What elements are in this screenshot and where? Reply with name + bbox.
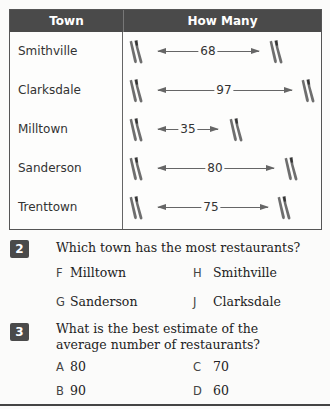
choice-letter: G xyxy=(56,294,70,310)
table-row: Sanderson 80 xyxy=(10,149,321,188)
fork-and-knife-icon xyxy=(300,76,316,106)
fork-and-knife-icon xyxy=(128,37,144,67)
choice-letter: C xyxy=(193,359,213,375)
question-text-line1: What is the best estimate of the xyxy=(56,321,258,337)
answer-choice-b[interactable]: B90 xyxy=(56,383,86,399)
town-name: Smithville xyxy=(18,32,77,71)
header-town: Town xyxy=(10,10,123,32)
answer-choice-h[interactable]: HSmithville xyxy=(193,265,277,281)
choice-text: Clarksdale xyxy=(213,294,281,310)
town-name: Clarksdale xyxy=(18,71,81,110)
town-name: Milltown xyxy=(18,110,68,149)
choice-letter: D xyxy=(193,383,213,399)
fork-and-knife-icon xyxy=(128,76,144,106)
question-number-badge: 2 xyxy=(10,240,29,258)
town-name: Trenttown xyxy=(18,188,77,227)
count-label: 97 xyxy=(214,82,233,98)
answer-choice-f[interactable]: FMilltown xyxy=(56,265,126,281)
restaurant-table: Town How Many Smithville 68 Clarksdale 9… xyxy=(9,9,322,230)
answer-choice-c[interactable]: C70 xyxy=(193,359,229,375)
answer-choice-g[interactable]: GSanderson xyxy=(56,294,137,310)
fork-and-knife-icon xyxy=(268,37,284,67)
fork-and-knife-icon xyxy=(276,193,292,223)
question-number-badge: 3 xyxy=(10,323,29,341)
fork-and-knife-icon xyxy=(128,193,144,223)
answer-choice-a[interactable]: A80 xyxy=(56,359,86,375)
choice-text: Sanderson xyxy=(70,294,137,310)
count-label: 68 xyxy=(198,43,217,59)
count-label: 75 xyxy=(201,199,220,215)
table-header: Town How Many xyxy=(10,10,321,32)
fork-and-knife-icon xyxy=(228,115,244,145)
choice-text: 80 xyxy=(70,359,86,375)
choice-text: Milltown xyxy=(70,265,126,281)
table-row: Trenttown 75 xyxy=(10,188,321,227)
fork-and-knife-icon xyxy=(128,115,144,145)
choice-letter: A xyxy=(56,359,70,375)
count-label: 80 xyxy=(205,160,224,176)
question-text: Which town has the most restaurants? xyxy=(56,240,300,256)
choice-letter: H xyxy=(193,265,213,281)
choice-text: 70 xyxy=(213,359,229,375)
town-name: Sanderson xyxy=(18,149,82,188)
choice-letter: F xyxy=(56,265,70,281)
choice-text: 90 xyxy=(70,383,86,399)
bottom-divider xyxy=(0,404,330,406)
answer-choice-j[interactable]: JClarksdale xyxy=(193,294,281,310)
fork-and-knife-icon xyxy=(283,154,299,184)
choice-text: Smithville xyxy=(213,265,277,281)
choice-text: 60 xyxy=(213,383,229,399)
count-label: 35 xyxy=(178,121,197,137)
answer-choice-d[interactable]: D60 xyxy=(193,383,229,399)
table-row: Smithville 68 xyxy=(10,32,321,71)
fork-and-knife-icon xyxy=(128,154,144,184)
header-how-many: How Many xyxy=(123,10,321,32)
choice-letter: B xyxy=(56,383,70,399)
table-row: Milltown 35 xyxy=(10,110,321,149)
table-row: Clarksdale 97 xyxy=(10,71,321,110)
choice-letter: J xyxy=(193,294,213,310)
question-text-line2: average number of restaurants? xyxy=(56,337,260,353)
